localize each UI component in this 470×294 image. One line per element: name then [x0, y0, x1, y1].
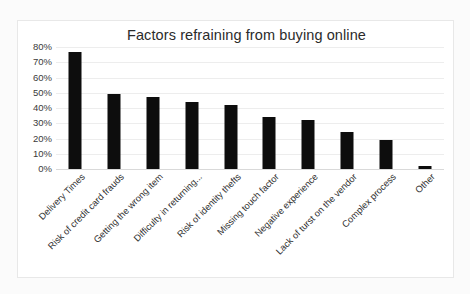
- gridline: [56, 62, 444, 63]
- bar: [108, 94, 121, 169]
- bar: [185, 102, 198, 169]
- x-axis-label-text: Risk of credit card frauds: [47, 171, 128, 252]
- x-axis-label-text: Difficulty in returning...: [132, 171, 205, 244]
- chart-frame: Factors refraining from buying online 0%…: [17, 20, 454, 278]
- y-axis-tick-label: 0%: [38, 164, 52, 174]
- gridline: [56, 169, 444, 170]
- y-axis-tick-label: 70%: [33, 58, 52, 68]
- y-axis-tick-label: 80%: [33, 42, 52, 52]
- y-axis-tick-label: 50%: [33, 88, 52, 98]
- x-axis-label-text: Getting the wrong item: [92, 171, 166, 245]
- y-axis-tick-label: 20%: [33, 134, 52, 144]
- gridline: [56, 78, 444, 79]
- bar: [302, 120, 315, 169]
- bar: [69, 52, 82, 169]
- x-axis-category-label: Difficulty in returning...: [132, 171, 205, 244]
- x-axis-category-label: Risk of credit card frauds: [47, 171, 128, 252]
- gridline: [56, 47, 444, 48]
- bar: [263, 117, 276, 169]
- y-axis-tick-label: 30%: [33, 119, 52, 129]
- x-axis-label-text: Other: [414, 171, 439, 196]
- bar: [224, 105, 237, 169]
- chart-title: Factors refraining from buying online: [18, 27, 453, 43]
- bar: [418, 166, 431, 169]
- bar: [147, 97, 160, 169]
- plot-area: 0%10%20%30%40%50%60%70%80%: [56, 47, 444, 169]
- y-axis-tick-label: 10%: [33, 149, 52, 159]
- x-axis-category-label: Other: [414, 171, 439, 196]
- y-axis-tick-label: 40%: [33, 103, 52, 113]
- y-axis-tick-label: 60%: [33, 73, 52, 83]
- bar: [379, 140, 392, 169]
- x-axis-category-label: Getting the wrong item: [92, 171, 166, 245]
- bar: [341, 132, 354, 169]
